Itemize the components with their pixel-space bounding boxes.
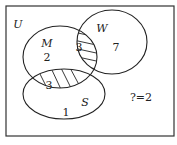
outside-note: ?=2 — [130, 92, 152, 103]
region-w-only: 7 — [113, 42, 120, 53]
region-s-only: 1 — [63, 107, 70, 118]
region-m-only: 2 — [44, 52, 51, 63]
set-w-label: W — [96, 23, 107, 34]
set-m-circle — [23, 26, 97, 88]
set-s-label: S — [81, 97, 89, 108]
universe-rect — [6, 6, 174, 136]
region-m-and-s: 3 — [46, 80, 53, 91]
set-m-label: M — [41, 38, 52, 49]
venn-diagram-graphic — [0, 0, 177, 145]
hatch-m-s — [25, 66, 84, 100]
universe-label: U — [13, 19, 22, 30]
region-m-and-w: 3 — [76, 42, 83, 53]
